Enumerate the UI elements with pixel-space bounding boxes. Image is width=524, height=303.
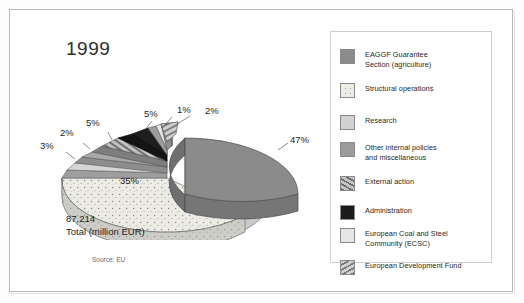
pie-slice-eaggf-guarantee: [169, 138, 298, 219]
legend-label-line1: EAGGF Guarantee: [365, 50, 428, 59]
pie-label-5-percent-b: 5%: [144, 108, 158, 119]
legend-label-structural-operations: Structural operations: [365, 83, 433, 94]
legend-label-line1: Other internal policies: [365, 143, 437, 152]
pie-chart-figure: 1999: [0, 0, 524, 303]
pie-label-2-percent-b: 2%: [205, 105, 219, 116]
legend-swatch-european-development-fund: [340, 260, 355, 275]
legend-swatch-ecsc: [340, 228, 355, 243]
total-annotation: 87.214 Total (million EUR): [66, 213, 145, 238]
pie-label-2-percent-a: 2%: [60, 127, 74, 138]
legend-label-external-action: External action: [365, 176, 414, 187]
pie-svg: [20, 60, 320, 240]
legend-label-administration: Administration: [365, 205, 412, 216]
legend-label-line2: Section (agriculture): [365, 60, 431, 69]
legend-label-line1: European Coal and Steel: [365, 229, 448, 238]
legend-swatch-research: [340, 115, 355, 130]
legend-item-european-development-fund: European Development Fund: [340, 260, 462, 275]
legend-item-external-action: External action: [340, 176, 414, 191]
source-note: Source: EU: [92, 256, 125, 263]
pie-label-47-percent: 47%: [290, 134, 309, 145]
total-caption: Total (million EUR): [66, 226, 145, 239]
legend-label-other-internal-policies: Other internal policies and miscellaneou…: [365, 142, 437, 162]
legend-item-other-internal-policies: Other internal policies and miscellaneou…: [340, 142, 437, 162]
legend-label-research: Research: [365, 115, 397, 126]
legend-swatch-administration: [340, 205, 355, 220]
pie-plot-area: 3% 2% 5% 5% 1% 2% 35% 47%: [20, 60, 320, 240]
chart-title: 1999: [66, 38, 110, 60]
pie-label-5-percent-a: 5%: [86, 117, 100, 128]
pie-label-1-percent: 1%: [177, 104, 191, 115]
pie-label-3-percent: 3%: [40, 140, 54, 151]
total-value: 87.214: [66, 213, 145, 226]
legend-swatch-other-internal-policies: [340, 142, 355, 157]
legend-swatch-external-action: [340, 176, 355, 191]
legend-item-eaggf-guarantee: EAGGF Guarantee Section (agriculture): [340, 49, 431, 69]
legend-item-administration: Administration: [340, 205, 412, 220]
legend-label-line2: Community (ECSC): [365, 239, 430, 248]
legend-label-line2: and miscellaneous: [365, 153, 426, 162]
chart-legend: EAGGF Guarantee Section (agriculture) St…: [330, 31, 492, 263]
legend-label-ecsc: European Coal and Steel Community (ECSC): [365, 228, 448, 248]
legend-label-european-development-fund: European Development Fund: [365, 260, 462, 271]
legend-item-structural-operations: Structural operations: [340, 83, 433, 98]
legend-swatch-eaggf-guarantee: [340, 49, 355, 64]
legend-swatch-structural-operations: [340, 83, 355, 98]
pie-label-35-percent: 35%: [120, 175, 139, 186]
legend-label-eaggf-guarantee: EAGGF Guarantee Section (agriculture): [365, 49, 431, 69]
legend-item-research: Research: [340, 115, 397, 130]
legend-item-ecsc: European Coal and Steel Community (ECSC): [340, 228, 448, 248]
